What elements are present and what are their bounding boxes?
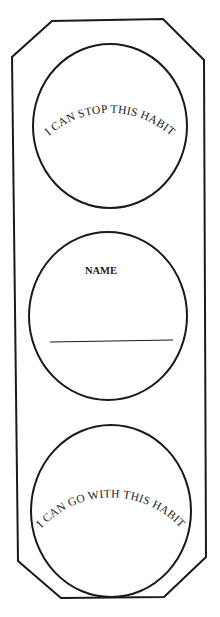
traffic-light-drawing: I CAN STOP THIS HABIT NAME I CAN GO WITH… (0, 0, 220, 617)
traffic-light-worksheet: I CAN STOP THIS HABIT NAME I CAN GO WITH… (0, 0, 220, 617)
middle-light-circle (29, 232, 187, 400)
top-light: I CAN STOP THIS HABIT (33, 44, 187, 208)
middle-light: NAME (29, 232, 187, 400)
name-label: NAME (85, 265, 117, 276)
bottom-light: I CAN GO WITH THIS HABIT (31, 425, 191, 597)
